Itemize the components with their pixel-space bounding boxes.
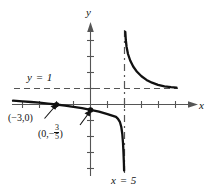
- y-axis-arrowhead: [87, 22, 94, 32]
- leader-line-yint: [80, 114, 89, 126]
- x-axis-arrowhead: [188, 101, 198, 108]
- x-axis-label: x: [199, 100, 204, 111]
- leader-arrowhead-yint: [86, 111, 91, 116]
- leader-arrows-group: [45, 104, 91, 125]
- y-intercept-point-label: (0,−35): [38, 124, 63, 141]
- axes-group: [12, 22, 198, 176]
- curve-group: [13, 32, 177, 171]
- vertical-asymptote-label: x = 5: [111, 175, 137, 186]
- y-axis-label: y: [86, 7, 91, 18]
- graph-canvas: [0, 0, 216, 193]
- leader-line-xint: [45, 107, 55, 119]
- y-intercept-suffix: ): [59, 128, 62, 139]
- curve-right-branch: [125, 32, 176, 88]
- horizontal-asymptote-label: y = 1: [27, 72, 53, 83]
- rational-function-figure: y x y = 1 x = 5 (−3,0) (0,−35): [0, 0, 216, 193]
- y-intercept-prefix: (0,: [38, 128, 49, 139]
- x-intercept-point-label: (−3,0): [8, 113, 33, 123]
